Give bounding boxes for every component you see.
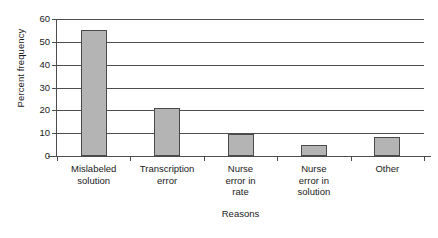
y-tick-mark-20 (52, 110, 57, 111)
bar-4 (374, 137, 400, 156)
x-category-label-line: Nurse (204, 163, 277, 175)
x-tick-mark-end (424, 157, 425, 161)
bar-3 (301, 145, 327, 156)
x-category-label-1: Transcriptionerror (130, 163, 203, 186)
y-tick-mark-50 (52, 42, 57, 43)
x-category-label-line: Nurse (277, 163, 350, 175)
x-category-label-4: Other (351, 163, 424, 175)
y-tick-mark-10 (52, 133, 57, 134)
x-category-label-line: solution (57, 175, 130, 187)
plot-area (57, 19, 424, 156)
y-tick-mark-30 (52, 88, 57, 89)
gridline-30 (57, 88, 424, 89)
x-category-label-line: Mislabeled (57, 163, 130, 175)
x-tick-mark-0 (57, 157, 58, 161)
y-axis-tick-labels: 0102030405060 (28, 0, 50, 238)
bar-0 (81, 30, 107, 156)
x-tick-mark-1 (130, 157, 131, 161)
y-tick-label-10: 10 (28, 128, 50, 138)
x-category-label-line: error (130, 175, 203, 187)
y-tick-label-50: 50 (28, 37, 50, 47)
y-tick-mark-60 (52, 19, 57, 20)
y-tick-label-60: 60 (28, 14, 50, 24)
y-tick-label-40: 40 (28, 60, 50, 70)
bar-2 (228, 134, 254, 156)
y-tick-label-0: 0 (28, 151, 50, 161)
gridline-60 (57, 19, 424, 20)
bar-chart-figure: Percent frequency 0102030405060 Mislabel… (0, 0, 438, 238)
x-tick-mark-3 (277, 157, 278, 161)
x-tick-mark-4 (351, 157, 352, 161)
bar-1 (154, 108, 180, 156)
x-category-label-line: rate (204, 186, 277, 198)
gridline-0 (57, 156, 424, 157)
x-category-label-line: solution (277, 186, 350, 198)
x-category-label-3: Nurseerror insolution (277, 163, 350, 198)
x-axis-category-labels: MislabeledsolutionTranscriptionerrorNurs… (57, 163, 424, 211)
gridline-40 (57, 65, 424, 66)
y-tick-label-30: 30 (28, 83, 50, 93)
gridline-20 (57, 110, 424, 111)
x-category-label-line: error in (277, 175, 350, 187)
y-axis-title: Percent frequency (14, 0, 28, 148)
x-category-label-0: Mislabeledsolution (57, 163, 130, 186)
x-axis-title: Reasons (57, 208, 424, 220)
x-category-label-2: Nurseerror inrate (204, 163, 277, 198)
x-category-label-line: Transcription (130, 163, 203, 175)
x-category-label-line: Other (351, 163, 424, 175)
y-tick-label-20: 20 (28, 105, 50, 115)
gridline-50 (57, 42, 424, 43)
x-tick-mark-2 (204, 157, 205, 161)
y-tick-mark-40 (52, 65, 57, 66)
x-category-label-line: error in (204, 175, 277, 187)
